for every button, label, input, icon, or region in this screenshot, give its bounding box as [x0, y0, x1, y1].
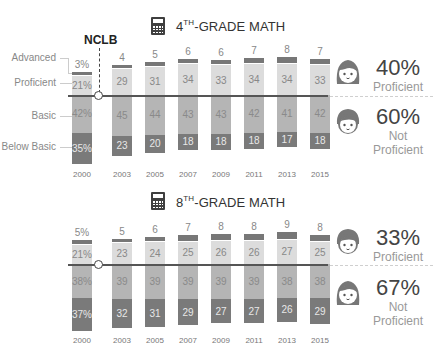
bar-segment-below-basic: 35%	[72, 133, 92, 165]
advanced-value-label: 6	[175, 46, 201, 57]
bar-segment-advanced	[244, 234, 264, 240]
year-label: 2000	[67, 336, 97, 345]
bar-segment-proficient: 27	[277, 240, 297, 264]
grade8-not-label: Not	[358, 300, 433, 314]
bar-segment-advanced	[244, 58, 264, 63]
advanced-value-label: 7	[307, 46, 333, 57]
grade4-not-proficient-label: Proficient	[358, 143, 433, 157]
bar-segment-proficient: 34	[244, 64, 264, 95]
bar-segment-proficient: 25	[310, 242, 330, 265]
bar-segment-proficient: 21%	[72, 245, 92, 264]
advanced-value-label: 6	[208, 47, 234, 58]
year-label: 2005	[140, 336, 170, 345]
chart-title-grade8: 8TH-GRADE MATH	[176, 195, 285, 210]
bar-segment-basic: 43	[211, 95, 231, 134]
bar-segment-advanced	[145, 62, 165, 66]
advanced-value-label: 5	[109, 226, 135, 237]
year-label: 2015	[305, 336, 335, 345]
advanced-value-label: 5	[142, 49, 168, 60]
bar-segment-below-basic: 17	[277, 132, 297, 147]
year-label: 2009	[206, 336, 236, 345]
bar-segment-advanced	[310, 59, 330, 64]
divider-dashed-grade4	[330, 96, 433, 97]
bar-segment-basic: 39	[244, 264, 264, 299]
bar-segment-basic: 45	[112, 95, 132, 136]
bar-segment-proficient: 33	[211, 65, 231, 95]
bar-segment-advanced	[178, 59, 198, 64]
advanced-value-label: 7	[241, 45, 267, 56]
bar-segment-below-basic: 27	[211, 299, 231, 323]
grade4-proficient-label: Proficient	[358, 80, 433, 94]
bar-segment-proficient: 25	[178, 242, 198, 265]
nclb-label: NCLB	[84, 33, 117, 47]
advanced-value-label: 9	[274, 219, 300, 230]
nclb-marker	[94, 91, 103, 100]
bar-segment-below-basic: 29	[310, 298, 330, 324]
bar-segment-advanced	[178, 235, 198, 240]
legend-below-basic: Below Basic	[2, 141, 56, 152]
legend-advanced: Advanced	[12, 52, 56, 63]
grade8-not-proficient-label: Proficient	[358, 314, 433, 328]
bar-segment-proficient: 24	[145, 242, 165, 264]
advanced-value-label: 8	[241, 221, 267, 232]
chart-title-grade4: 4TH-GRADE MATH	[176, 19, 285, 34]
bar-segment-advanced	[145, 237, 165, 242]
bar-segment-advanced	[211, 234, 231, 240]
bar-segment-proficient: 23	[112, 243, 132, 264]
divider-dashed-grade8	[330, 265, 433, 266]
year-label: 2015	[305, 170, 335, 179]
advanced-value-label: 5%	[69, 227, 95, 238]
bar-segment-below-basic: 20	[145, 135, 165, 153]
leader-advanced	[60, 58, 69, 74]
title-text: -GRADE MATH	[194, 195, 285, 210]
bar-segment-below-basic: 23	[112, 136, 132, 157]
bar-segment-proficient: 21%	[72, 76, 92, 95]
year-label: 2011	[239, 170, 269, 179]
grade8-not-proficient-pct: 67%	[358, 275, 433, 301]
grade4-proficient-pct: 40%	[358, 55, 433, 81]
bar-segment-advanced	[112, 65, 132, 68]
bar-segment-proficient: 29	[112, 69, 132, 95]
bar-segment-advanced	[310, 235, 330, 241]
year-label: 2013	[272, 336, 302, 345]
bar-segment-advanced	[72, 240, 92, 244]
bar-segment-below-basic: 18	[211, 134, 231, 150]
grade4-not-proficient-pct: 60%	[358, 104, 433, 130]
grade8-proficient-label: Proficient	[358, 250, 433, 264]
bar-segment-below-basic: 29	[178, 299, 198, 325]
year-label: 2013	[272, 170, 302, 179]
legend-basic: Basic	[32, 110, 56, 121]
bar-segment-basic: 38	[310, 264, 330, 298]
bar-segment-below-basic: 32	[112, 299, 132, 328]
nclb-divider-line	[99, 48, 100, 93]
bar-segment-basic: 39	[145, 264, 165, 299]
advanced-value-label: 8	[274, 44, 300, 55]
advanced-value-label: 4	[109, 52, 135, 63]
bar-segment-proficient: 26	[244, 241, 264, 264]
year-label: 2007	[173, 170, 203, 179]
bar-segment-basic: 42	[310, 95, 330, 133]
advanced-value-label: 3%	[69, 59, 95, 70]
year-label: 2003	[107, 170, 137, 179]
grade4-not-label: Not	[358, 129, 433, 143]
bar-segment-basic: 42%	[72, 95, 92, 133]
bar-segment-below-basic: 18	[310, 133, 330, 149]
title-superscript: TH	[183, 18, 194, 27]
calculator-icon	[151, 192, 165, 210]
leader-proficient	[60, 83, 72, 84]
bar-segment-below-basic: 26	[277, 298, 297, 321]
year-label: 2000	[67, 170, 97, 179]
bar-segment-basic: 42	[244, 95, 264, 133]
bar-segment-advanced	[72, 72, 92, 75]
advanced-value-label: 7	[175, 222, 201, 233]
bar-segment-advanced	[277, 57, 297, 63]
year-label: 2011	[239, 336, 269, 345]
grade8-proficient-pct: 33%	[358, 225, 433, 251]
bar-segment-below-basic: 37%	[72, 298, 92, 331]
calculator-icon	[151, 17, 165, 35]
legend-proficient: Proficient	[14, 77, 56, 88]
bar-segment-advanced	[211, 60, 231, 65]
bar-segment-basic: 38	[277, 264, 297, 298]
bar-segment-proficient: 26	[211, 241, 231, 264]
advanced-value-label: 6	[142, 224, 168, 235]
